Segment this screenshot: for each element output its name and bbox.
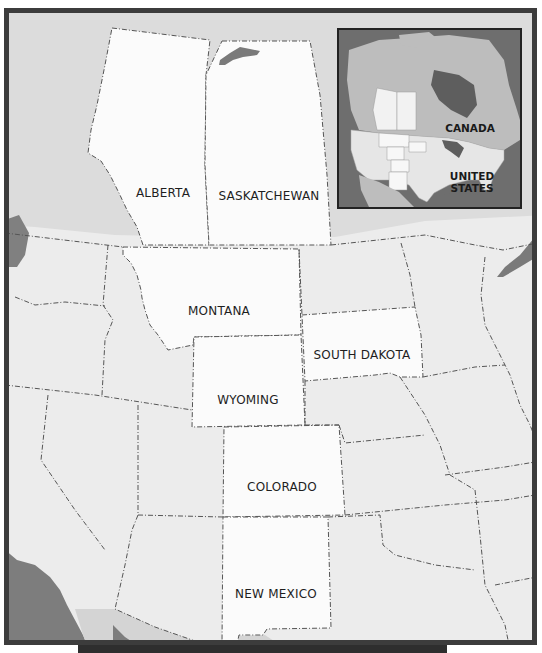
caption-bar (78, 645, 447, 653)
label-montana: MONTANA (188, 304, 250, 318)
region-new-mexico (222, 517, 331, 644)
inset-label-united-states: UNITED STATES (450, 170, 494, 194)
region-south-dakota (302, 307, 423, 381)
alberta-highlight (373, 88, 397, 130)
locator-inset-map: CANADA UNITED STATES (337, 28, 522, 209)
south-dakota-highlight (409, 142, 426, 152)
inset-label-united: UNITED (450, 170, 494, 182)
label-colorado: COLORADO (247, 480, 317, 494)
montana-highlight (379, 133, 409, 147)
label-wyoming: WYOMING (217, 393, 279, 407)
new-mexico-highlight (389, 172, 407, 190)
colorado-highlight (391, 160, 409, 172)
region-saskatchewan (205, 41, 331, 245)
saskatchewan-highlight (397, 92, 416, 130)
inset-label-canada: CANADA (445, 122, 495, 134)
wyoming-highlight (387, 147, 404, 160)
inset-label-states: STATES (450, 182, 494, 194)
label-south-dakota: SOUTH DAKOTA (314, 348, 411, 362)
region-wyoming (192, 335, 305, 427)
label-alberta: ALBERTA (136, 186, 190, 200)
region-colorado (223, 425, 345, 517)
label-new-mexico: NEW MEXICO (235, 587, 317, 601)
label-saskatchewan: SASKATCHEWAN (218, 189, 319, 203)
